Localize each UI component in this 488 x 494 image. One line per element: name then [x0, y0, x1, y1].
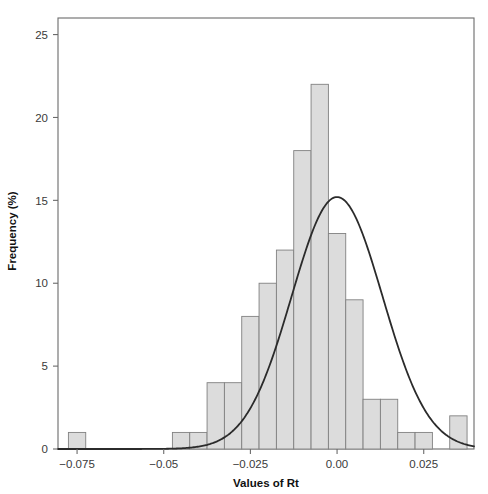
- x-tick-label: 0.025: [409, 458, 438, 470]
- x-tick-label: −0.075: [59, 458, 95, 470]
- histogram-bar: [68, 432, 85, 449]
- y-tick-label: 20: [35, 112, 48, 124]
- y-tick-label: 10: [35, 277, 48, 289]
- histogram-bar: [294, 151, 311, 449]
- y-tick-label: 0: [42, 443, 48, 455]
- histogram-chart: −0.075−0.05−0.0250.000.025 0510152025 Va…: [0, 0, 488, 494]
- x-axis-title: Values of Rt: [233, 477, 299, 489]
- histogram-bar: [346, 300, 363, 449]
- histogram-bar: [328, 234, 345, 450]
- y-axis-title: Frequency (%): [6, 191, 18, 270]
- histogram-bar: [363, 399, 380, 449]
- x-tick-label: −0.05: [149, 458, 178, 470]
- histogram-bar: [415, 432, 432, 449]
- histogram-bar: [172, 432, 189, 449]
- histogram-bar: [259, 283, 276, 449]
- y-tick-label: 5: [42, 360, 48, 372]
- chart-container: −0.075−0.05−0.0250.000.025 0510152025 Va…: [0, 0, 488, 494]
- histogram-bar: [380, 399, 397, 449]
- x-tick-label: −0.025: [233, 458, 269, 470]
- histogram-bar: [224, 383, 241, 449]
- y-tick-label: 25: [35, 29, 48, 41]
- histogram-bar: [311, 84, 328, 449]
- histogram-bar: [242, 316, 259, 449]
- histogram-bar: [276, 250, 293, 449]
- histogram-bar: [398, 432, 415, 449]
- y-tick-label: 15: [35, 195, 48, 207]
- x-tick-label: 0.00: [326, 458, 348, 470]
